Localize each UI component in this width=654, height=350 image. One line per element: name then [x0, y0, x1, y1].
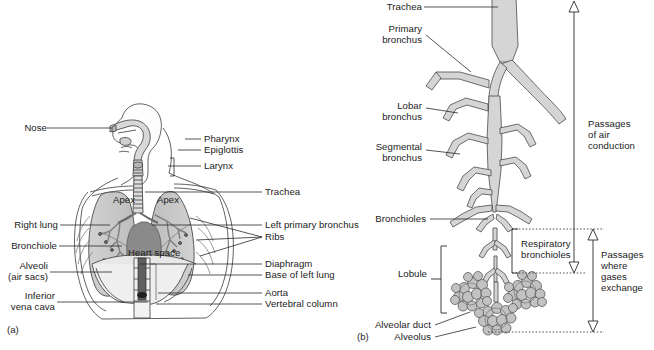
label-apex-left: Apex: [157, 195, 179, 206]
label-b-respiratory-bronchioles: bronchioles: [521, 250, 571, 261]
label-heart-space: Heart space: [128, 248, 180, 259]
alveolar-sacs: [451, 271, 547, 336]
respiratory-system-figure: Nose Right lung Bronchiole Alveoli (air …: [0, 0, 654, 350]
panel-b-artwork: [340, 0, 654, 350]
label-alveoli-air-sacs: (air sacs): [0, 272, 48, 283]
lobule-bracket: [431, 246, 447, 313]
label-larynx: Larynx: [204, 161, 233, 172]
label-apex-right: Apex: [113, 195, 135, 206]
label-b-bronchioles: Bronchioles: [360, 214, 426, 225]
label-b-gas-exchange-4: exchange: [601, 283, 643, 294]
larynx: [133, 160, 143, 176]
label-b-segmental-bronchus: bronchus: [362, 153, 422, 164]
label-bronchiole: Bronchiole: [0, 241, 57, 252]
label-vertebral-column: Vertebral column: [265, 299, 338, 310]
label-b-passages-air-3: conduction: [588, 141, 635, 152]
label-right-lung: Right lung: [0, 220, 58, 231]
respiratory-bronchioles-bracket: [512, 229, 518, 273]
label-nose: Nose: [2, 123, 47, 134]
label-b-alveolar-duct: Alveolar duct: [358, 320, 431, 331]
label-b-alveolus: Alveolus: [376, 332, 431, 343]
label-base-of-left-lung: Base of left lung: [265, 270, 335, 281]
panel-a-tag: (a): [7, 324, 19, 335]
label-epiglottis: Epiglottis: [204, 145, 243, 156]
panel-b-tag: (b): [357, 331, 369, 342]
label-trachea: Trachea: [265, 187, 300, 198]
label-b-lobule: Lobule: [384, 269, 427, 280]
gas-exchange-arrow: [588, 229, 598, 332]
label-ribs: Ribs: [265, 232, 284, 243]
air-conduction-arrow: [569, 1, 579, 273]
panel-a-thorax-overview: Nose Right lung Bronchiole Alveoli (air …: [0, 0, 340, 350]
label-vena-cava: vena cava: [0, 302, 55, 313]
label-b-trachea: Trachea: [370, 2, 422, 13]
label-b-primary-bronchus: bronchus: [362, 35, 422, 46]
label-b-lobar-bronchus: bronchus: [362, 112, 422, 123]
panel-b-bronchial-tree: Trachea Primary bronchus Lobar bronchus …: [340, 0, 654, 350]
